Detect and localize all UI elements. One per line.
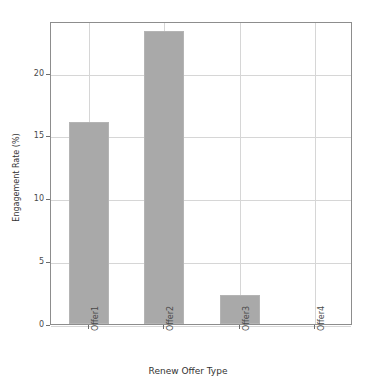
bar-chart-figure: 0 5 10 15 20 Offer1 Offer2 Offer3 Offer4… xyxy=(0,0,376,385)
y-tick-label-15: 15 xyxy=(4,132,44,140)
gridline-vertical-offer3 xyxy=(240,23,241,324)
y-axis-title: Engagement Rate (%) xyxy=(12,133,21,221)
y-tick-mark-15 xyxy=(46,136,50,137)
y-tick-label-10: 10 xyxy=(4,195,44,203)
bar-offer2[interactable] xyxy=(144,31,184,324)
x-tick-mark-offer4 xyxy=(314,325,315,329)
x-tick-label-offer2: Offer2 xyxy=(167,306,175,331)
x-axis-title: Renew Offer Type xyxy=(0,366,376,376)
y-tick-mark-5 xyxy=(46,262,50,263)
bar-offer3[interactable] xyxy=(220,295,260,324)
x-tick-mark-offer3 xyxy=(239,325,240,329)
y-tick-label-5: 5 xyxy=(4,258,44,266)
x-tick-label-offer3: Offer3 xyxy=(243,306,251,331)
y-tick-mark-0 xyxy=(46,325,50,326)
bar-offer1[interactable] xyxy=(69,122,109,324)
y-tick-mark-20 xyxy=(46,74,50,75)
y-tick-label-0: 0 xyxy=(4,321,44,329)
plot-area xyxy=(50,22,352,325)
x-tick-label-offer1: Offer1 xyxy=(92,306,100,331)
y-tick-mark-10 xyxy=(46,199,50,200)
x-tick-mark-offer1 xyxy=(88,325,89,329)
x-tick-mark-offer2 xyxy=(163,325,164,329)
x-tick-label-offer4: Offer4 xyxy=(318,306,326,331)
y-tick-label-20: 20 xyxy=(4,70,44,78)
gridline-horizontal-20 xyxy=(51,75,351,76)
gridline-vertical-offer4 xyxy=(315,23,316,324)
